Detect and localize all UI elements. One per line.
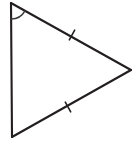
geometry-figure-canvas [0, 0, 136, 150]
triangle-interior [11, 3, 131, 137]
triangle-side-left [11, 3, 12, 137]
triangle-diagram-svg [0, 0, 136, 150]
